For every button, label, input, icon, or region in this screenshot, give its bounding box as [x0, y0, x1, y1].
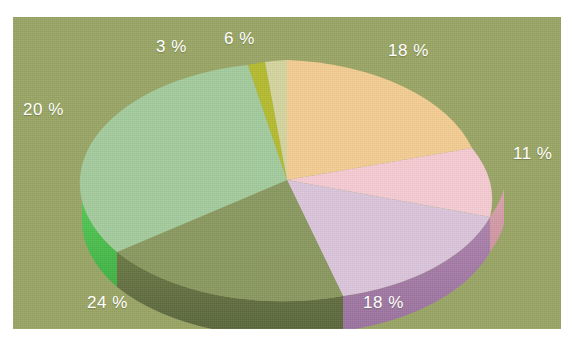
pie-chart-graphic [13, 17, 561, 329]
pie-label-slice-3: 18 % [363, 293, 404, 313]
pie-label-slice-7: 6 % [224, 29, 255, 49]
pie-label-slice-2: 11 % [513, 144, 553, 164]
pie-label-slice-4: 24 % [87, 293, 128, 313]
chart-panel: 18 % 11 % 18 % 24 % 20 % 3 % 6 % [13, 17, 561, 329]
pie-label-slice-5: 20 % [23, 100, 64, 120]
pie-top-face [80, 60, 492, 301]
pie-chart-figure: 18 % 11 % 18 % 24 % 20 % 3 % 6 % [0, 0, 574, 345]
pie-side-slice-2 [490, 189, 504, 252]
pie-label-slice-6: 3 % [156, 37, 187, 57]
pie-label-slice-1: 18 % [388, 41, 429, 61]
